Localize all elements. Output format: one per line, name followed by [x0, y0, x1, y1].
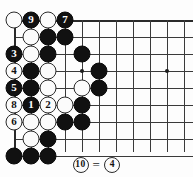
stone-white[interactable] — [74, 80, 91, 97]
stone-white[interactable] — [40, 63, 57, 80]
stone-move-number: 8 — [11, 99, 17, 110]
caption-move-10-stone: 10 — [73, 157, 89, 173]
stone-move-number: 3 — [11, 48, 17, 59]
grid-line-vertical — [167, 20, 168, 152]
stone-white[interactable] — [40, 12, 57, 29]
stone-black[interactable] — [40, 46, 57, 63]
stone-white[interactable] — [40, 80, 57, 97]
stone-black[interactable] — [23, 63, 40, 80]
grid-line-vertical — [184, 20, 185, 152]
go-board[interactable]: 973458126 — [0, 0, 193, 152]
stone-black[interactable] — [40, 148, 57, 165]
stone-black-move-7[interactable]: 7 — [57, 12, 74, 29]
stone-white[interactable] — [23, 46, 40, 63]
star-point — [165, 69, 169, 73]
stone-move-number: 4 — [11, 65, 17, 76]
stone-white[interactable] — [23, 131, 40, 148]
stone-black-move-1[interactable]: 1 — [23, 97, 40, 114]
stone-black[interactable] — [40, 131, 57, 148]
stone-black[interactable] — [57, 29, 74, 46]
stone-black[interactable] — [74, 46, 91, 63]
stone-black-move-9[interactable]: 9 — [23, 12, 40, 29]
stone-move-number: 1 — [28, 99, 34, 110]
grid-line-vertical — [116, 20, 117, 152]
stone-move-number: 9 — [28, 14, 34, 25]
stone-black[interactable] — [40, 29, 57, 46]
stone-black[interactable] — [74, 97, 91, 114]
stone-black[interactable] — [6, 148, 23, 165]
stone-black[interactable] — [23, 148, 40, 165]
stone-white[interactable] — [40, 114, 57, 131]
stone-move-number: 6 — [11, 116, 17, 127]
stone-white[interactable] — [57, 97, 74, 114]
stone-white[interactable] — [23, 114, 40, 131]
grid-line-vertical — [133, 20, 134, 152]
stone-move-number: 2 — [45, 99, 51, 110]
stone-move-number: 7 — [62, 14, 68, 25]
caption-move-4-stone: 4 — [104, 157, 120, 173]
stone-black-move-3[interactable]: 3 — [6, 46, 23, 63]
stone-white-move-4[interactable]: 4 — [6, 63, 23, 80]
stone-white-move-6[interactable]: 6 — [6, 114, 23, 131]
star-point — [80, 69, 84, 73]
stone-move-number: 5 — [11, 82, 17, 93]
go-diagram-figure: 973458126 10 = 4 — [0, 0, 193, 177]
stone-black[interactable] — [91, 63, 108, 80]
stone-black[interactable] — [91, 80, 108, 97]
caption-equals: = — [93, 157, 101, 173]
stone-white-move-8[interactable]: 8 — [6, 97, 23, 114]
stone-white[interactable] — [6, 12, 23, 29]
stone-black[interactable] — [57, 114, 74, 131]
stone-white[interactable] — [23, 29, 40, 46]
stone-black-move-5[interactable]: 5 — [6, 80, 23, 97]
stone-black[interactable] — [74, 114, 91, 131]
grid-line-vertical — [150, 20, 151, 152]
stone-black[interactable] — [23, 80, 40, 97]
stone-white-move-2[interactable]: 2 — [40, 97, 57, 114]
